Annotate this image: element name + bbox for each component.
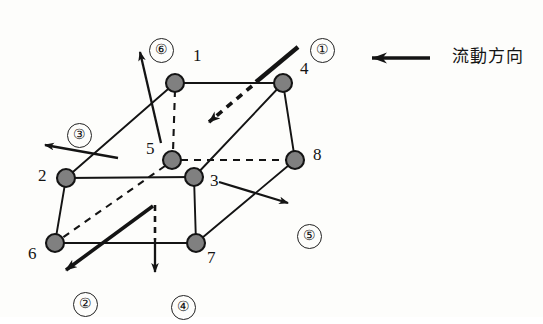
node-5-dot xyxy=(163,151,181,169)
normal-arrow-5-line xyxy=(219,182,288,203)
normal-arrow-2 xyxy=(66,206,153,270)
normal-arrow-1-dash xyxy=(209,86,252,122)
face-circle-4: ④ xyxy=(171,295,196,320)
face-label-2: ② xyxy=(57,276,98,324)
node-2-dot xyxy=(57,169,75,187)
face-label-4: ④ xyxy=(155,279,196,324)
face-label-3: ③ xyxy=(51,107,92,164)
edge-4-8 xyxy=(283,83,295,160)
face-circle-1: ① xyxy=(310,38,335,63)
face-label-5: ⑤ xyxy=(281,208,322,265)
face-circle-2: ② xyxy=(73,292,98,317)
node-label-8: 8 xyxy=(313,146,322,163)
normal-arrow-5 xyxy=(219,182,288,203)
face-circle-3: ③ xyxy=(67,123,92,148)
node-7-dot xyxy=(187,234,205,252)
node-4-dot xyxy=(274,74,292,92)
node-label-5: 5 xyxy=(146,140,155,157)
edge-2-3 xyxy=(66,177,194,178)
node-label-7: 7 xyxy=(207,249,216,266)
normal-arrow-2-line xyxy=(66,206,153,270)
face-circle-6: ⑥ xyxy=(149,38,174,63)
node-label-6: 6 xyxy=(28,245,37,262)
node-label-1: 1 xyxy=(193,47,202,64)
node-label-2: 2 xyxy=(38,167,47,184)
node-3-dot xyxy=(185,168,203,186)
node-6-dot xyxy=(46,234,64,252)
face-label-1: ① xyxy=(294,22,335,79)
face-label-6: ⑥ xyxy=(133,22,174,79)
flow-direction-label: 流動方向 xyxy=(452,48,524,65)
node-8-dot xyxy=(286,151,304,169)
edge-1-5-hidden xyxy=(173,90,175,152)
node-label-3: 3 xyxy=(210,172,219,189)
face-circle-5: ⑤ xyxy=(297,224,322,249)
